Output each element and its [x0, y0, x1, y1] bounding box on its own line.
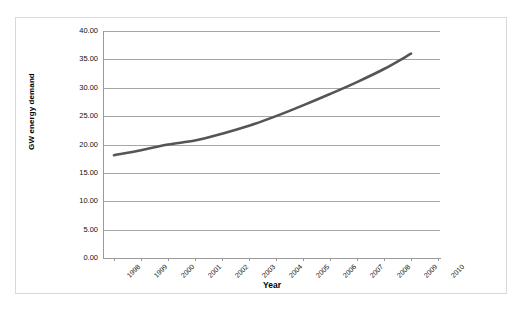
x-tick-label: 2004	[288, 263, 304, 279]
y-axis-tick-labels: 0.005.0010.0015.0020.0025.0030.0035.0040…	[50, 31, 98, 258]
y-tick-label: 15.00	[52, 169, 98, 177]
x-tick-label: 2010	[450, 263, 466, 279]
series-path-gw-energy-demand	[114, 54, 411, 156]
x-tick-label: 2001	[207, 263, 223, 279]
y-tick-label: 30.00	[52, 84, 98, 92]
x-tick-label: 2000	[180, 263, 196, 279]
line-chart: 0.005.0010.0015.0020.0025.0030.0035.0040…	[0, 0, 525, 317]
y-tick-label: 10.00	[52, 197, 98, 205]
x-tick-label: 2003	[261, 263, 277, 279]
x-tick-label: 2006	[342, 263, 358, 279]
x-tick-label: 1998	[126, 263, 142, 279]
y-tick-label: 35.00	[52, 55, 98, 63]
x-tick-label: 2009	[423, 263, 439, 279]
x-tick-label: 1999	[153, 263, 169, 279]
y-tick-label: 20.00	[52, 141, 98, 149]
x-tick-label: 2005	[315, 263, 331, 279]
y-tick-label: 40.00	[52, 27, 98, 35]
x-tick-label: 2002	[234, 263, 250, 279]
y-tick-label: 25.00	[52, 112, 98, 120]
data-series-line	[103, 31, 441, 259]
x-tick-label: 2008	[396, 263, 412, 279]
y-tick-label: 0.00	[52, 254, 98, 262]
y-tick-label: 5.00	[52, 226, 98, 234]
y-axis-title: GW energy demand	[27, 52, 36, 172]
x-tick-label: 2007	[369, 263, 385, 279]
x-axis-title: Year	[103, 280, 441, 290]
